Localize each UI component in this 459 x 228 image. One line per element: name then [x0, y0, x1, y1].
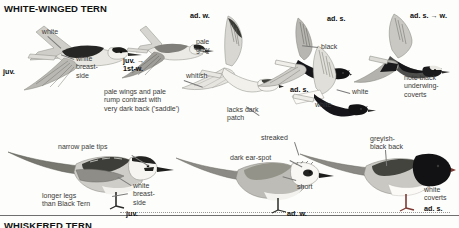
annotation-a20: streaked — [261, 134, 303, 142]
annotation-a07: pale grey — [196, 38, 226, 55]
annotation-a06: ad. w. — [190, 12, 222, 20]
annotation-a02: juv. — [3, 68, 29, 76]
annotation-a01: white — [30, 28, 70, 36]
annotation-a21: dark ear-spot — [230, 154, 288, 162]
annotation-a25: greyish- black back — [370, 135, 418, 152]
annotation-a12: white — [352, 88, 382, 96]
annotation-a08: whitish — [186, 72, 220, 80]
next-species-title: WHISKERED TERN — [4, 220, 92, 228]
annotation-a23: ad. w. — [287, 210, 317, 218]
annotation-a17: white breast- side — [133, 182, 169, 207]
annotation-a03: white breast- side — [76, 55, 116, 80]
annotation-a15: narrow pale tips — [58, 143, 130, 151]
annotation-a18: juv. — [126, 210, 148, 218]
annotation-a04: pale wings and pale rump contrast with v… — [104, 88, 208, 113]
page-title: WHITE-WINGED TERN — [4, 3, 107, 14]
field-guide-plate: WHITE-WINGED TERN WHISKERED TERN — [0, 0, 459, 228]
annotation-a27: ad. s. — [424, 205, 452, 213]
annotation-a19: lacks dark patch — [227, 106, 275, 123]
annotation-a26: white coverts — [424, 186, 458, 203]
annotation-a14: note black underwing- coverts — [404, 74, 458, 99]
annotation-a10: ad. s. — [290, 86, 318, 94]
annotation-a24: white — [315, 101, 345, 109]
annotation-a22: short — [297, 183, 325, 191]
annotation-a11: ad. s. — [327, 15, 355, 23]
annotation-a05: juv. → 1st-w. — [123, 57, 157, 74]
annotation-a13: ad. s. → w. — [410, 12, 458, 20]
annotation-a09: black — [321, 43, 351, 51]
annotation-a16: longer legs than Black Tern — [42, 192, 108, 209]
